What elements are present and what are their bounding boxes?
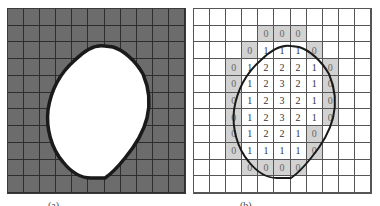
grid-cell — [105, 76, 121, 93]
grid-cell — [121, 42, 137, 59]
grid-cell — [121, 9, 137, 26]
grid-cell — [8, 42, 24, 59]
grid-cell — [242, 9, 258, 26]
grid-cell — [88, 160, 104, 177]
grid-cell — [339, 9, 355, 26]
grid-cell — [339, 109, 355, 126]
grid-cell — [226, 176, 242, 193]
grid-cell — [169, 126, 185, 143]
grid-cell: 0 — [226, 126, 242, 143]
grid-cell — [226, 9, 242, 26]
grid-cell — [169, 176, 185, 193]
grid-cell — [169, 93, 185, 110]
grid-cell — [137, 109, 153, 126]
grid-cell — [153, 42, 169, 59]
grid-cell — [194, 143, 210, 160]
grid-cell — [307, 26, 323, 43]
grid-cell — [40, 93, 56, 110]
grid-cell — [153, 59, 169, 76]
grid-cell — [56, 126, 72, 143]
grid-cell: 0 — [258, 160, 274, 177]
grid-cell — [56, 143, 72, 160]
grid-cell — [56, 76, 72, 93]
binary-mask-panel — [7, 8, 186, 194]
grid-cell — [40, 126, 56, 143]
pixel-grid — [7, 8, 186, 194]
grid-cell — [153, 160, 169, 177]
grid-cell — [339, 176, 355, 193]
grid-cell: 0 — [291, 160, 307, 177]
grid-cell — [194, 42, 210, 59]
grid-cell: 2 — [258, 93, 274, 110]
grid-cell — [291, 9, 307, 26]
grid-cell — [153, 93, 169, 110]
grid-cell: 1 — [307, 76, 323, 93]
grid-cell — [8, 109, 24, 126]
grid-cell: 2 — [291, 93, 307, 110]
grid-cell: 0 — [258, 26, 274, 43]
grid-cell: 2 — [291, 109, 307, 126]
grid-cell — [24, 126, 40, 143]
grid-cell — [105, 93, 121, 110]
grid-cell — [121, 109, 137, 126]
grid-cell — [72, 126, 88, 143]
grid-cell: 0 — [323, 59, 339, 76]
grid-cell — [323, 143, 339, 160]
grid-cell — [24, 93, 40, 110]
grid-cell — [355, 26, 371, 43]
grid-cell — [307, 9, 323, 26]
grid-cell — [88, 59, 104, 76]
grid-cell — [355, 176, 371, 193]
grid-cell: 2 — [274, 59, 290, 76]
grid-cell — [169, 26, 185, 43]
grid-cell — [242, 176, 258, 193]
grid-cell: 1 — [258, 42, 274, 59]
grid-cell: 1 — [242, 143, 258, 160]
grid-cell: 1 — [242, 93, 258, 110]
grid-cell — [258, 9, 274, 26]
grid-cell — [105, 9, 121, 26]
grid-cell — [24, 160, 40, 177]
grid-cell — [137, 42, 153, 59]
grid-cell — [210, 176, 226, 193]
grid-cell — [121, 160, 137, 177]
grid-cell — [339, 160, 355, 177]
grid-cell — [72, 26, 88, 43]
grid-cell — [194, 76, 210, 93]
grid-cell — [72, 176, 88, 193]
grid-cell — [72, 160, 88, 177]
grid-cell — [194, 26, 210, 43]
grid-cell — [355, 160, 371, 177]
grid-cell — [88, 9, 104, 26]
grid-cell — [137, 160, 153, 177]
grid-cell — [355, 76, 371, 93]
distance-grid: 0000111001222100123210012321001232100122… — [193, 8, 372, 194]
grid-cell — [355, 9, 371, 26]
grid-cell — [153, 76, 169, 93]
grid-cell — [40, 59, 56, 76]
grid-cell — [88, 176, 104, 193]
grid-cell — [121, 59, 137, 76]
grid-cell — [137, 76, 153, 93]
grid-cell — [8, 176, 24, 193]
grid-cell — [307, 160, 323, 177]
grid-cell — [210, 26, 226, 43]
grid-cell: 1 — [274, 42, 290, 59]
grid-cell — [323, 26, 339, 43]
grid-cell — [355, 126, 371, 143]
grid-cell — [153, 176, 169, 193]
grid-cell — [56, 9, 72, 26]
grid-cell — [72, 76, 88, 93]
grid-cell — [169, 160, 185, 177]
grid-cell — [210, 126, 226, 143]
grid-cell — [24, 9, 40, 26]
grid-cell — [194, 59, 210, 76]
grid-cell: 1 — [307, 109, 323, 126]
grid-cell — [88, 93, 104, 110]
grid-cell: 1 — [242, 126, 258, 143]
grid-cell: 2 — [258, 76, 274, 93]
grid-cell — [194, 176, 210, 193]
grid-cell — [226, 160, 242, 177]
grid-cell — [169, 76, 185, 93]
grid-cell — [40, 176, 56, 193]
